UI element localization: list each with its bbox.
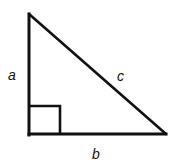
side-c-hypotenuse-line <box>29 14 166 134</box>
label-c: c <box>117 68 124 84</box>
right-triangle-diagram: a c b <box>0 0 175 164</box>
label-b: b <box>92 146 100 162</box>
label-a: a <box>8 67 16 83</box>
right-angle-marker <box>29 106 60 134</box>
